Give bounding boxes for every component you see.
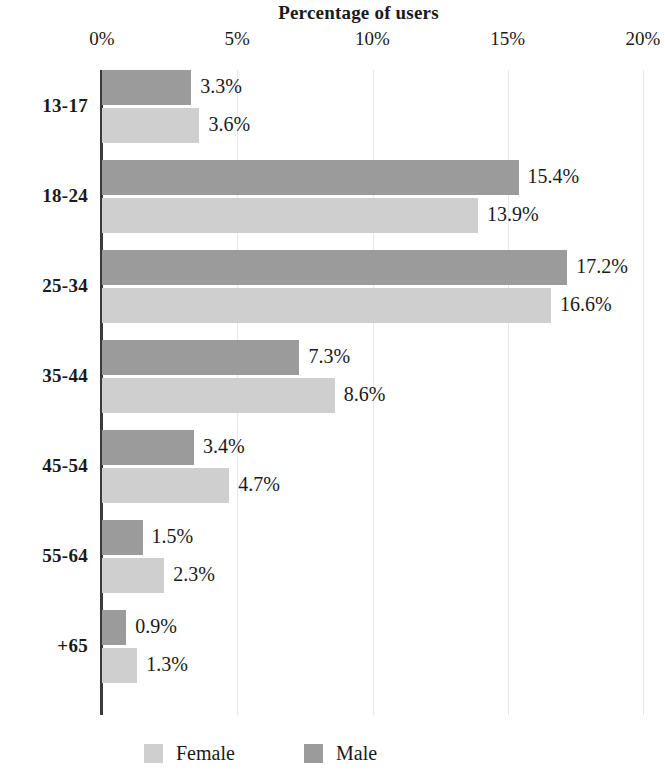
category-label-+65: +65	[0, 635, 88, 657]
bar-value-female-13-17: 3.6%	[208, 113, 250, 136]
bar-female-18-24[interactable]	[102, 198, 478, 233]
bar-female-35-44[interactable]	[102, 378, 335, 413]
bar-female-25-34[interactable]	[102, 288, 551, 323]
bar-value-female-35-44: 8.6%	[344, 383, 386, 406]
bar-value-male-18-24: 15.4%	[528, 165, 580, 188]
bar-value-male-25-34: 17.2%	[576, 255, 628, 278]
category-label-13-17: 13-17	[0, 95, 88, 117]
bar-female-55-64[interactable]	[102, 558, 164, 593]
x-tick-label-5: 5%	[225, 28, 250, 50]
category-label-45-54: 45-54	[0, 455, 88, 477]
legend-label-male: Male	[336, 742, 377, 765]
bar-male-+65[interactable]	[102, 610, 126, 645]
legend-swatch-male-icon	[304, 744, 323, 763]
bar-male-13-17[interactable]	[102, 70, 191, 105]
bar-male-35-44[interactable]	[102, 340, 299, 375]
bar-value-female-18-24: 13.9%	[487, 203, 539, 226]
bar-value-male-13-17: 3.3%	[200, 75, 242, 98]
bar-value-female-25-34: 16.6%	[560, 293, 612, 316]
category-label-25-34: 25-34	[0, 275, 88, 297]
bar-male-18-24[interactable]	[102, 160, 519, 195]
bar-value-male-55-64: 1.5%	[152, 525, 194, 548]
legend-entry-male[interactable]: Male	[304, 742, 377, 765]
x-axis-tick-labels: 0%5%10%15%20%	[0, 28, 665, 54]
bar-male-55-64[interactable]	[102, 520, 143, 555]
x-tick-label-20: 20%	[626, 28, 661, 50]
legend-swatch-female-icon	[144, 744, 163, 763]
bar-value-female-+65: 1.3%	[146, 653, 188, 676]
x-tick-label-15: 15%	[490, 28, 525, 50]
gridline-20	[643, 70, 644, 715]
bar-male-25-34[interactable]	[102, 250, 567, 285]
bar-value-male-+65: 0.9%	[135, 615, 177, 638]
chart-legend: FemaleMale	[0, 742, 665, 781]
bar-male-45-54[interactable]	[102, 430, 194, 465]
bar-value-female-55-64: 2.3%	[173, 563, 215, 586]
bar-value-male-45-54: 3.4%	[203, 435, 245, 458]
legend-entry-female[interactable]: Female	[144, 742, 235, 765]
plot-area: 3.3%3.6%15.4%13.9%17.2%16.6%7.3%8.6%3.4%…	[102, 70, 643, 715]
category-label-18-24: 18-24	[0, 185, 88, 207]
bar-value-female-45-54: 4.7%	[238, 473, 280, 496]
chart-title: Percentage of users	[0, 2, 665, 24]
x-tick-label-10: 10%	[355, 28, 390, 50]
x-tick-label-0: 0%	[89, 28, 114, 50]
category-label-35-44: 35-44	[0, 365, 88, 387]
bar-value-male-35-44: 7.3%	[308, 345, 350, 368]
bar-female-13-17[interactable]	[102, 108, 199, 143]
category-label-55-64: 55-64	[0, 545, 88, 567]
legend-label-female: Female	[176, 742, 235, 765]
bar-female-45-54[interactable]	[102, 468, 229, 503]
bar-female-+65[interactable]	[102, 648, 137, 683]
